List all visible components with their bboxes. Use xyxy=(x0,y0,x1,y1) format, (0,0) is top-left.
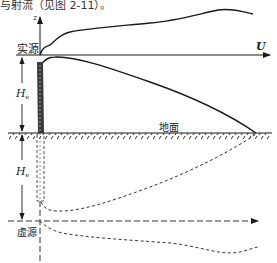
plume-upper-boundary xyxy=(40,9,253,55)
stack xyxy=(37,62,44,133)
real-source-label: 实源 xyxy=(17,40,39,56)
height-label-lower: He xyxy=(16,165,29,178)
virtual-plume-reflected-boundary xyxy=(41,134,256,211)
plume-reflection-diagram xyxy=(0,0,277,263)
wind-label: U xyxy=(256,40,266,53)
virtual-plume-lower-boundary xyxy=(40,221,258,253)
ground-label: 地面 xyxy=(159,119,179,134)
virtual-stack xyxy=(37,133,44,201)
virtual-source-label: 虚源 xyxy=(17,224,37,239)
ground-line xyxy=(8,133,272,139)
plume-lower-boundary xyxy=(41,57,256,133)
z-axis-label: z xyxy=(33,13,37,22)
height-label-upper: He xyxy=(16,87,29,100)
